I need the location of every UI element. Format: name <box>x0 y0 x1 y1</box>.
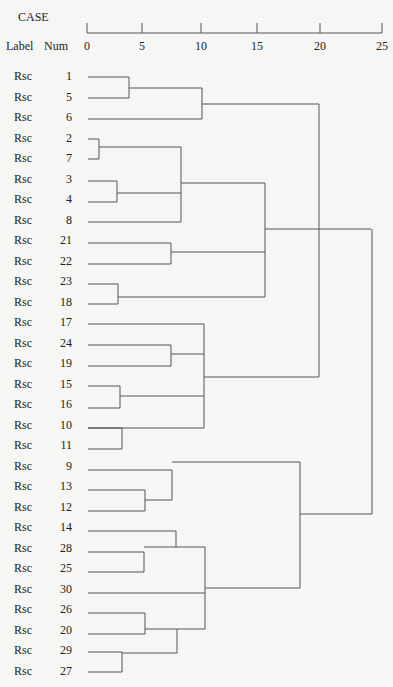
leaf-number: 4 <box>52 192 72 206</box>
axis-tick-label: 25 <box>376 39 388 53</box>
leaf-label: Rsc <box>14 90 32 104</box>
leaf-label: Rsc <box>14 274 32 288</box>
leaf-label: Rsc <box>14 377 32 391</box>
leaf-number: 2 <box>52 131 72 145</box>
leaf-label: Rsc <box>14 336 32 350</box>
leaf-number: 14 <box>52 520 72 534</box>
axis-tick-label: 15 <box>251 39 263 53</box>
leaf-number: 20 <box>52 623 72 637</box>
leaf-number: 26 <box>52 602 72 616</box>
leaf-number: 22 <box>52 254 72 268</box>
leaf-label: Rsc <box>14 254 32 268</box>
leaf-label: Rsc <box>14 623 32 637</box>
leaf-number: 19 <box>52 356 72 370</box>
leaf-label: Rsc <box>14 131 32 145</box>
leaf-label: Rsc <box>14 479 32 493</box>
leaf-number: 10 <box>52 418 72 432</box>
leaf-number: 3 <box>52 172 72 186</box>
leaf-number: 15 <box>52 377 72 391</box>
leaf-label: Rsc <box>14 213 32 227</box>
leaf-label: Rsc <box>14 172 32 186</box>
leaf-label: Rsc <box>14 459 32 473</box>
leaf-number: 11 <box>52 438 72 452</box>
leaf-label: Rsc <box>14 602 32 616</box>
leaf-label: Rsc <box>14 664 32 678</box>
leaf-number: 8 <box>52 213 72 227</box>
leaf-label: Rsc <box>14 110 32 124</box>
leaf-label: Rsc <box>14 151 32 165</box>
leaf-number: 29 <box>52 643 72 657</box>
leaf-number: 16 <box>52 397 72 411</box>
case-header: CASE <box>18 10 49 24</box>
leaf-label: Rsc <box>14 192 32 206</box>
axis-tick-label: 10 <box>195 39 207 53</box>
leaf-number: 18 <box>52 295 72 309</box>
leaf-label: Rsc <box>14 418 32 432</box>
leaf-label: Rsc <box>14 295 32 309</box>
leaf-number: 30 <box>52 582 72 596</box>
label-column-header: Label <box>6 39 33 53</box>
leaf-number: 7 <box>52 151 72 165</box>
leaf-number: 25 <box>52 561 72 575</box>
leaf-label: Rsc <box>14 438 32 452</box>
leaf-number: 13 <box>52 479 72 493</box>
leaf-label: Rsc <box>14 69 32 83</box>
leaf-number: 5 <box>52 90 72 104</box>
leaf-label: Rsc <box>14 561 32 575</box>
leaf-number: 28 <box>52 541 72 555</box>
leaf-number: 21 <box>52 233 72 247</box>
leaf-label: Rsc <box>14 315 32 329</box>
leaf-number: 1 <box>52 69 72 83</box>
leaf-label: Rsc <box>14 356 32 370</box>
leaf-number: 27 <box>52 664 72 678</box>
axis-tick-label: 20 <box>314 39 326 53</box>
leaf-number: 9 <box>52 459 72 473</box>
leaf-number: 6 <box>52 110 72 124</box>
leaf-label: Rsc <box>14 397 32 411</box>
leaf-label: Rsc <box>14 233 32 247</box>
axis-tick-label: 0 <box>84 39 90 53</box>
leaf-number: 24 <box>52 336 72 350</box>
leaf-number: 12 <box>52 500 72 514</box>
leaf-label: Rsc <box>14 582 32 596</box>
leaf-label: Rsc <box>14 643 32 657</box>
leaf-label: Rsc <box>14 500 32 514</box>
leaf-number: 17 <box>52 315 72 329</box>
leaf-label: Rsc <box>14 541 32 555</box>
num-column-header: Num <box>44 39 68 53</box>
axis-tick-label: 5 <box>139 39 145 53</box>
leaf-label: Rsc <box>14 520 32 534</box>
leaf-number: 23 <box>52 274 72 288</box>
